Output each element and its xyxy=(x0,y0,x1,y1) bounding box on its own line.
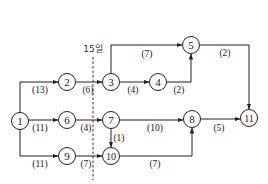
duration-label: (7) xyxy=(141,49,152,60)
svg-text:8: 8 xyxy=(189,113,195,125)
edge-4-5: (2) xyxy=(167,54,191,96)
node-8: 8 xyxy=(184,111,201,128)
edge-5-11: (2) xyxy=(200,45,249,109)
svg-text:9: 9 xyxy=(64,150,70,162)
node-11: 11 xyxy=(241,110,258,127)
svg-text:1: 1 xyxy=(17,115,23,127)
svg-text:4: 4 xyxy=(155,76,161,88)
node-3: 3 xyxy=(103,74,120,91)
node-1: 1 xyxy=(12,113,29,130)
node-6: 6 xyxy=(59,112,76,129)
svg-text:11: 11 xyxy=(244,113,254,124)
duration-label: (13) xyxy=(32,85,48,96)
svg-text:2: 2 xyxy=(64,76,70,88)
svg-text:7: 7 xyxy=(108,114,114,126)
duration-label: (11) xyxy=(32,159,47,170)
duration-label: (4) xyxy=(80,123,91,134)
svg-text:10: 10 xyxy=(106,151,116,162)
edge-7-10: (1) xyxy=(111,129,125,147)
node-7: 7 xyxy=(103,112,120,129)
edge-3-5: (7) xyxy=(111,45,182,73)
edge-3-4: (4) xyxy=(120,82,149,96)
duration-label: (2) xyxy=(173,85,184,96)
edge-1-2: (13) xyxy=(20,82,58,113)
node-4: 4 xyxy=(150,74,167,91)
cutoff-label: 15일 xyxy=(83,44,102,54)
svg-text:3: 3 xyxy=(108,76,114,88)
duration-label: (1) xyxy=(113,133,124,144)
edge-7-8: (10) xyxy=(120,120,183,134)
svg-text:5: 5 xyxy=(188,39,194,51)
duration-label: (6) xyxy=(82,85,93,96)
edge-9-10: (7) xyxy=(76,156,102,170)
network-diagram: 15일 (13) (11) (11) (6) (7) (4) (2) (2) (… xyxy=(0,0,268,184)
duration-label: (4) xyxy=(127,85,138,96)
node-9: 9 xyxy=(59,148,76,165)
edge-1-6: (11) xyxy=(28,120,58,134)
duration-label: (11) xyxy=(32,123,47,134)
node-10: 10 xyxy=(103,148,120,165)
duration-label: (2) xyxy=(219,48,230,59)
edge-2-3: (6) xyxy=(76,82,102,96)
duration-label: (7) xyxy=(80,159,91,170)
edge-1-9: (11) xyxy=(20,129,58,170)
svg-text:6: 6 xyxy=(64,114,70,126)
duration-label: (7) xyxy=(149,159,160,170)
node-2: 2 xyxy=(59,74,76,91)
edge-10-8: (7) xyxy=(120,128,192,170)
node-5: 5 xyxy=(183,37,200,54)
edge-6-7: (4) xyxy=(76,120,102,134)
duration-label: (10) xyxy=(147,123,163,134)
duration-label: (5) xyxy=(213,123,224,134)
edge-8-11: (5) xyxy=(201,119,240,134)
